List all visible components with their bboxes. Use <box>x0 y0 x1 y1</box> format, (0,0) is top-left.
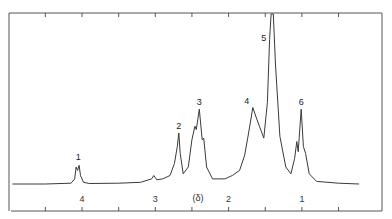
peak-label-2: 2 <box>176 121 181 131</box>
x-axis-label: (δ) <box>192 193 203 203</box>
bottom-axis-ticks <box>45 207 338 211</box>
top-axis-ticks <box>45 13 338 17</box>
x-tick-label: 2 <box>226 194 231 204</box>
x-tick-label: 3 <box>153 194 158 204</box>
chart-frame <box>9 13 382 211</box>
peak-label-1: 1 <box>76 152 81 162</box>
peak-label-5: 5 <box>261 33 266 43</box>
x-tick-label: 4 <box>79 194 84 204</box>
peak-label-4: 4 <box>244 96 249 106</box>
spectrum-chart <box>0 0 392 219</box>
spectrum-trace <box>12 14 359 184</box>
peak-label-3: 3 <box>197 97 202 107</box>
x-tick-label: 1 <box>299 194 304 204</box>
peak-label-6: 6 <box>299 97 304 107</box>
